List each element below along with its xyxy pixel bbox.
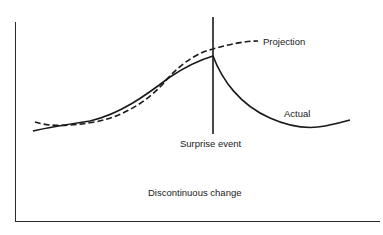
discontinuous-change-diagram: Projection Actual Surprise event Discont… <box>0 0 383 235</box>
diagram-canvas <box>0 0 383 235</box>
projection-label: Projection <box>263 37 305 47</box>
actual-label: Actual <box>284 109 310 119</box>
actual-curve-rising <box>33 56 213 131</box>
actual-curve-falling <box>213 56 350 127</box>
surprise-event-label: Surprise event <box>180 139 241 149</box>
caption-label: Discontinuous change <box>148 188 241 198</box>
projection-curve <box>35 41 258 125</box>
